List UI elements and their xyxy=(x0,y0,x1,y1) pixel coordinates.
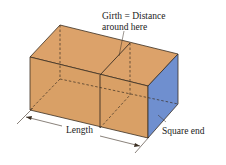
length-label: Length xyxy=(66,125,93,135)
square-end-label: Square end xyxy=(162,126,204,136)
girth-label-line2: around here xyxy=(102,22,147,32)
girth-label-line1: Girth = Distance xyxy=(102,11,165,21)
arrowhead-right xyxy=(134,143,140,147)
arrowhead-left xyxy=(26,116,32,120)
diagram-canvas: Girth = Distance around here Length Squa… xyxy=(0,0,226,165)
